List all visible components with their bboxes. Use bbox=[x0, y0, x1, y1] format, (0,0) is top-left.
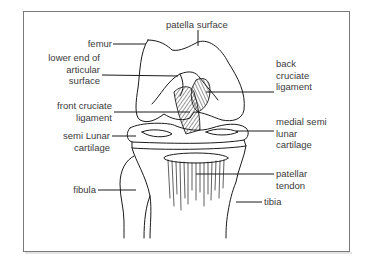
label-tibia: tibia bbox=[264, 196, 281, 208]
label-patellar-tendon: patellar tendon bbox=[276, 168, 307, 191]
label-medial-semi-lunar-cartilage: medial semi lunar cartilage bbox=[276, 116, 327, 151]
label-back-cruciate-ligament: back cruciate ligament bbox=[276, 58, 312, 93]
leader-articular-surface bbox=[102, 75, 178, 76]
patellar-tendon-top bbox=[164, 153, 228, 163]
label-lower-end-articular-surface: lower end of articular surface bbox=[40, 52, 100, 87]
back-cruciate-ligament bbox=[191, 78, 210, 112]
label-front-cruciate-ligament: front cruciate ligament bbox=[42, 100, 112, 123]
tibia-outline bbox=[132, 148, 151, 238]
label-patella-surface: patella surface bbox=[166, 19, 228, 31]
label-fibula: fibula bbox=[60, 184, 96, 196]
label-femur: femur bbox=[82, 38, 112, 50]
label-semi-lunar-cartilage: semi Lunar cartilage bbox=[50, 130, 110, 153]
fibula-outline bbox=[120, 156, 134, 238]
